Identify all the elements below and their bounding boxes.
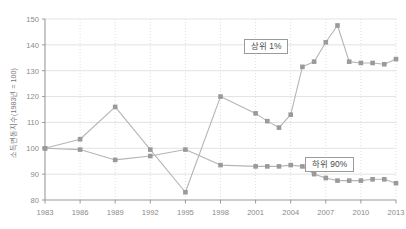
data-point-marker bbox=[218, 163, 223, 168]
data-point-marker bbox=[253, 111, 258, 116]
data-point-marker bbox=[312, 172, 317, 177]
data-point-marker bbox=[324, 176, 329, 181]
data-point-marker bbox=[370, 177, 375, 182]
data-point-marker bbox=[78, 137, 83, 142]
data-point-marker bbox=[359, 61, 364, 66]
data-point-marker bbox=[300, 65, 305, 70]
data-point-marker bbox=[382, 62, 387, 67]
data-point-marker bbox=[148, 147, 153, 152]
data-point-marker bbox=[347, 178, 352, 183]
data-point-marker bbox=[265, 119, 270, 124]
data-point-marker bbox=[113, 105, 118, 110]
data-point-marker bbox=[253, 164, 258, 169]
data-point-marker bbox=[288, 112, 293, 117]
x-tick-label: 1992 bbox=[142, 208, 159, 217]
data-point-marker bbox=[265, 164, 270, 169]
x-tick-label: 1986 bbox=[72, 208, 89, 217]
x-tick-label: 2010 bbox=[352, 208, 369, 217]
data-point-marker bbox=[183, 190, 188, 195]
y-tick-label: 150 bbox=[26, 15, 39, 24]
data-point-marker bbox=[300, 164, 305, 169]
chart-plot-area: 8090100110120130140150 19831986198919921… bbox=[0, 0, 406, 229]
data-point-marker bbox=[324, 40, 329, 45]
data-point-marker bbox=[78, 147, 83, 152]
data-point-marker bbox=[312, 59, 317, 64]
x-tick-label: 1983 bbox=[37, 208, 54, 217]
income-variation-index-chart: 소득변동지수(1983년 = 100) 80901001101201301401… bbox=[0, 0, 406, 229]
y-tick-label: 120 bbox=[26, 92, 39, 101]
x-tick-label: 2001 bbox=[247, 208, 264, 217]
y-tick-labels: 8090100110120130140150 bbox=[26, 15, 39, 205]
data-point-marker bbox=[335, 23, 340, 28]
data-point-marker bbox=[148, 154, 153, 159]
data-point-marker bbox=[113, 158, 118, 163]
data-point-marker bbox=[394, 57, 399, 62]
data-point-marker bbox=[394, 181, 399, 186]
data-point-marker bbox=[43, 146, 48, 151]
data-point-marker bbox=[277, 164, 282, 169]
data-point-marker bbox=[288, 163, 293, 168]
x-tick-labels: 1983198619891992199519982001200420072010… bbox=[37, 208, 405, 217]
data-point-marker bbox=[335, 178, 340, 183]
y-tick-label: 110 bbox=[27, 118, 39, 127]
annotation-top-1-percent: 상위 1% bbox=[244, 39, 288, 54]
data-point-marker bbox=[183, 147, 188, 152]
y-tick-label: 90 bbox=[31, 170, 39, 179]
annotation-bottom-90-percent: 하위 90% bbox=[305, 157, 354, 172]
data-point-marker bbox=[370, 61, 375, 66]
y-tick-label: 100 bbox=[26, 144, 39, 153]
data-point-marker bbox=[382, 177, 387, 182]
x-tick-label: 1989 bbox=[107, 208, 124, 217]
x-tick-label: 1995 bbox=[177, 208, 194, 217]
y-tick-label: 80 bbox=[31, 196, 39, 205]
y-tick-label: 140 bbox=[26, 41, 39, 50]
y-tick-label: 130 bbox=[26, 67, 39, 76]
data-point-marker bbox=[218, 94, 223, 99]
x-tick-label: 2007 bbox=[317, 208, 334, 217]
axes bbox=[42, 19, 396, 204]
x-tick-label: 2004 bbox=[282, 208, 299, 217]
gridlines bbox=[45, 19, 396, 200]
x-tick-label: 2013 bbox=[388, 208, 405, 217]
data-point-marker bbox=[359, 178, 364, 183]
data-point-marker bbox=[277, 125, 282, 130]
x-tick-label: 1998 bbox=[212, 208, 229, 217]
data-point-marker bbox=[347, 59, 352, 64]
